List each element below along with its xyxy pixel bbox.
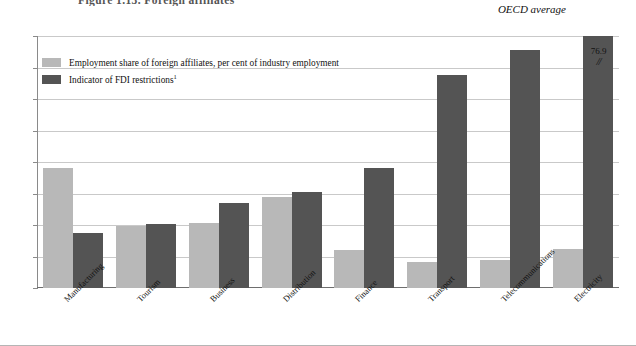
bar-group-transport xyxy=(401,36,474,288)
figure-subtitle: OECD average xyxy=(0,3,566,15)
bar-transport-employment-share xyxy=(407,262,437,288)
legend-item-employment-share: Employment share of foreign affiliates, … xyxy=(42,56,339,69)
light-swatch-icon xyxy=(42,58,61,67)
bar-business-fdi-restrictions xyxy=(219,203,249,288)
dark-swatch-icon xyxy=(42,75,61,84)
bar-telecommunications-fdi-restrictions xyxy=(510,50,540,288)
bar-telecommunications-employment-share xyxy=(480,260,510,288)
bar-tourism-fdi-restrictions xyxy=(146,224,176,288)
figure-container: Figure 1.13. Foreign affiliates OECD ave… xyxy=(0,0,636,346)
bar-finance-fdi-restrictions xyxy=(364,168,394,288)
legend-label-employment-share: Employment share of foreign affiliates, … xyxy=(69,58,339,68)
bar-group-telecommunications xyxy=(474,36,547,288)
chart-legend: Employment share of foreign affiliates, … xyxy=(42,56,339,90)
y-tick-mark-0 xyxy=(33,288,38,289)
bar-group-finance xyxy=(328,36,401,288)
legend-footnote-marker: 1 xyxy=(174,73,177,80)
bar-electricity-employment-share xyxy=(553,249,583,288)
axis-break-icon: // xyxy=(579,55,619,67)
legend-item-fdi-restrictions: Indicator of FDI restrictions1 xyxy=(42,73,339,86)
bar-finance-employment-share xyxy=(334,250,364,288)
bar-business-employment-share xyxy=(189,223,219,288)
legend-label-fdi-restrictions: Indicator of FDI restrictions1 xyxy=(69,73,177,85)
bar-manufacturing-employment-share xyxy=(43,168,73,288)
bar-tourism-employment-share xyxy=(116,226,146,288)
bar-group-electricity xyxy=(546,36,619,288)
bar-distribution-employment-share xyxy=(262,197,292,288)
bar-transport-fdi-restrictions xyxy=(437,75,467,288)
bar-electricity-fdi-restrictions xyxy=(583,36,613,288)
